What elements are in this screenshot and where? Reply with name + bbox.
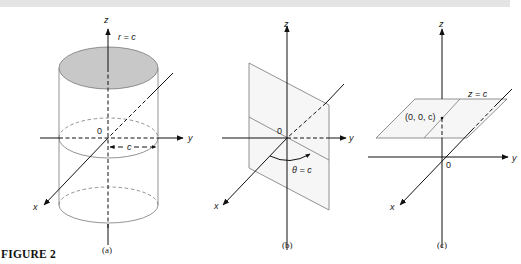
figure-canvas: z r = c 0 y x c (a) z 0 y x θ = c (b) [0,0,521,264]
point-label-c: (0, 0, c) [405,112,436,122]
y-label-c: y [511,153,517,163]
x-label-b: x [213,201,219,211]
x-label-a: x [32,202,38,212]
x-axis-a [44,138,108,205]
y-label-b: y [348,133,354,143]
surface-label-b: θ = c [292,165,312,175]
panel-b-halfplane: z 0 y x θ = c (b) [213,19,354,250]
z-label-c: z [438,19,444,29]
half-plane [249,63,329,210]
z-label-b: z [283,19,289,29]
x-axis-b-back [326,84,344,103]
radius-label-a: c [127,142,132,152]
panel-a-caption: (a) [102,245,112,255]
z-label-a: z [103,15,109,25]
point-0-0-c [441,117,444,120]
surface-label-c: z = c [467,89,488,99]
x-axis-c [400,130,472,205]
x-label-c: x [389,202,395,212]
panel-b-caption: (b) [282,240,293,250]
panel-c-caption: (c) [437,240,447,250]
origin-label-a: 0 [97,126,102,136]
origin-label-b: 0 [277,126,282,136]
cylinder-bottom-ellipse-back [59,187,158,205]
figure-caption: FIGURE 2 [1,248,56,260]
y-label-a: y [187,133,193,143]
x-axis-a-hidden [108,96,150,138]
panel-a-cylinder: z r = c 0 y x c (a) [32,15,193,255]
origin-label-c: 0 [446,160,451,170]
panel-c-plane: z z = c (0, 0, c) 0 y x (c) [368,19,517,250]
surface-label-a: r = c [118,32,136,42]
